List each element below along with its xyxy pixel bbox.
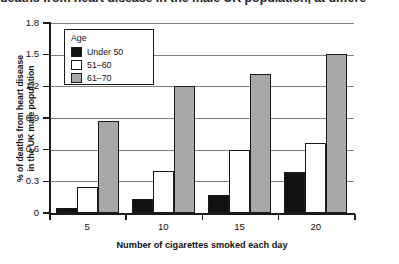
legend-item-61-70: 61–70	[71, 71, 153, 84]
y-tick-mark	[43, 86, 50, 88]
y-tick-mark	[43, 149, 50, 151]
bar-15-51-60	[229, 150, 250, 213]
y-tick-label: 1.5	[0, 48, 39, 59]
bar-10-61-70	[174, 86, 195, 213]
gridline	[49, 23, 354, 24]
legend-item-under-50: Under 50	[71, 45, 153, 58]
x-tick-label: 5	[72, 221, 102, 232]
y-tick-mark	[43, 54, 50, 56]
legend-swatch-under-50	[71, 47, 82, 57]
x-tick-mark	[354, 214, 356, 220]
x-tick-mark	[49, 214, 51, 220]
y-tick-label: 1.2	[0, 80, 39, 91]
x-tick-label: 20	[301, 221, 331, 232]
legend-label-51-60: 51–60	[87, 60, 111, 70]
y-tick-mark	[43, 22, 50, 24]
x-tick-label: 15	[225, 221, 255, 232]
legend-label-61-70: 61–70	[87, 73, 111, 83]
x-tick-mark	[278, 214, 280, 220]
bar-15-61-70	[250, 74, 271, 213]
chart-figure: deaths from heart disease in the male UK…	[0, 0, 399, 264]
y-tick-label: 0.6	[0, 143, 39, 154]
y-tick-mark	[43, 117, 50, 119]
y-tick-label: 0	[0, 207, 39, 218]
legend-title: Age	[71, 33, 153, 44]
legend: Age Under 50 51–60 61–70	[64, 29, 154, 85]
legend-swatch-61-70	[71, 73, 82, 83]
y-tick-mark	[43, 181, 50, 183]
gridline	[49, 86, 354, 87]
bar-5-61-70	[98, 121, 119, 213]
y-tick-label: 0.3	[0, 175, 39, 186]
gridline	[49, 118, 354, 119]
x-axis-title: Number of cigarettes smoked each day	[49, 240, 355, 250]
bar-5-under-50	[56, 208, 77, 213]
bar-10-under-50	[132, 199, 153, 213]
x-tick-mark	[202, 214, 204, 220]
bar-15-under-50	[208, 195, 229, 213]
legend-item-51-60: 51–60	[71, 58, 153, 71]
figure-caption: deaths from heart disease in the male UK…	[0, 0, 399, 9]
bar-20-under-50	[284, 172, 305, 213]
bar-20-61-70	[326, 54, 347, 213]
bar-10-51-60	[153, 171, 174, 213]
x-tick-label: 10	[148, 221, 178, 232]
x-tick-mark	[125, 214, 127, 220]
y-tick-label: 0.9	[0, 112, 39, 123]
bar-5-51-60	[77, 187, 98, 213]
bar-20-51-60	[305, 143, 326, 213]
legend-swatch-51-60	[71, 60, 82, 70]
legend-label-under-50: Under 50	[87, 47, 123, 57]
y-tick-label: 1.8	[0, 17, 39, 28]
